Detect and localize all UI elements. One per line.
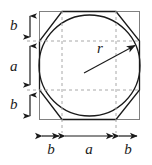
label-radius: r [97,41,103,56]
label-left-b-bottom: b [10,97,18,112]
label-bottom-a: a [83,142,95,157]
geometry-diagram: b a b b a b r [0,0,152,165]
inscribed-circle [39,15,140,116]
outer-square [40,12,140,120]
label-left-a: a [10,59,18,74]
label-bottom-b-right: b [122,142,134,157]
inscribed-octagon [40,12,140,120]
label-left-b-top: b [10,18,18,33]
label-bottom-b-left: b [45,142,57,157]
radius-arrow [84,46,135,74]
